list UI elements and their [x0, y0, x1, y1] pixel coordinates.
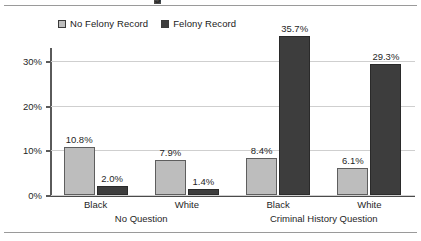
plot-area: 10.8%2.0%7.9%1.4%8.4%35.7%6.1%29.3% — [50, 48, 415, 195]
bar[interactable] — [246, 158, 277, 195]
bar-value-label: 6.1% — [342, 155, 364, 166]
y-axis-line — [50, 48, 52, 195]
bar-value-label: 35.7% — [281, 23, 308, 34]
gridline — [50, 150, 415, 151]
x-axis-category-label: White — [357, 199, 381, 210]
bar[interactable] — [64, 147, 95, 195]
bar-value-label: 29.3% — [372, 51, 399, 62]
bar[interactable] — [279, 36, 310, 195]
y-axis-tick-label: 10% — [8, 145, 42, 156]
bar-value-label: 2.0% — [101, 173, 123, 184]
bar[interactable] — [97, 186, 128, 195]
x-axis-category-label: Black — [267, 199, 290, 210]
y-axis-tick — [46, 195, 51, 197]
y-axis-tick — [46, 61, 51, 63]
bar[interactable] — [155, 160, 186, 195]
y-axis-tick-label: 20% — [8, 100, 42, 111]
x-axis-group-label: Criminal History Question — [270, 213, 378, 224]
bar-value-label: 10.8% — [66, 134, 93, 145]
gridline — [50, 106, 415, 107]
y-axis-tick-label: 30% — [8, 56, 42, 67]
bar[interactable] — [188, 189, 219, 195]
bar-value-label: 7.9% — [160, 147, 182, 158]
bar-chart: 0%10%20%30% 10.8%2.0%7.9%1.4%8.4%35.7%6.… — [0, 0, 421, 241]
bar[interactable] — [337, 168, 368, 195]
bar-value-label: 8.4% — [251, 145, 273, 156]
y-axis-tick — [46, 150, 51, 152]
x-axis-group-label: No Question — [115, 213, 168, 224]
y-axis-tick — [46, 106, 51, 108]
bar[interactable] — [370, 64, 401, 195]
y-axis-tick-label: 0% — [8, 190, 42, 201]
x-axis-category-label: Black — [84, 199, 107, 210]
y-axis-tick-labels: 0%10%20%30% — [8, 48, 42, 195]
gridline — [50, 195, 415, 196]
bar-value-label: 1.4% — [193, 176, 215, 187]
gridline — [50, 61, 415, 62]
x-axis-category-label: White — [175, 199, 199, 210]
